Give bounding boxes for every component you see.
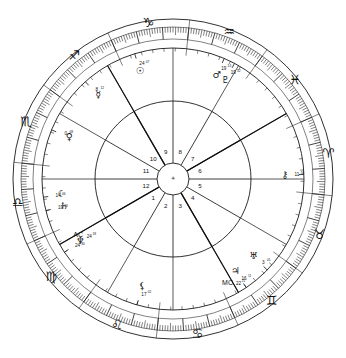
degree-tick (162, 27, 163, 39)
degree-tick (306, 241, 311, 243)
degree-tick (26, 140, 31, 141)
degree-tick (253, 52, 256, 57)
degree-tick (265, 61, 268, 65)
degree-tick (126, 318, 128, 323)
degree-tick (57, 81, 61, 85)
degree-tick (92, 50, 95, 55)
inner-degree-tick (82, 85, 84, 88)
degree-tick (25, 212, 30, 213)
degree-tick (40, 105, 45, 108)
meridian-axis (181, 193, 239, 293)
degree-tick (304, 110, 309, 113)
inner-degree-tick (219, 57, 220, 60)
sign-glyph-capricorn: ♑ (143, 15, 155, 30)
inner-degree-tick (269, 263, 272, 265)
degree-tick (302, 108, 307, 111)
planet-uranus: ♅301 (249, 250, 271, 270)
degree-tick (297, 98, 302, 101)
degree-tick (136, 321, 137, 326)
degree-tick (116, 38, 118, 43)
inner-degree-tick (43, 165, 50, 166)
degree-tick (221, 35, 223, 40)
inner-degree-tick (130, 55, 131, 58)
sign-glyph-gemini: ♊ (266, 293, 278, 308)
planet-glyph-chiron: ⚷ (281, 169, 288, 180)
degree-tick (106, 42, 108, 47)
planet-mercury: ☿812 (85, 82, 104, 101)
degree-tick (316, 147, 321, 148)
degree-tick (129, 34, 131, 39)
degree-tick (317, 204, 322, 205)
degree-tick (102, 45, 105, 50)
inner-degree-tick (223, 292, 226, 298)
degree-tick (41, 252, 46, 255)
inner-degree-tick (116, 294, 118, 297)
degree-tick (136, 32, 139, 44)
degree-tick (34, 117, 39, 119)
degree-tick (237, 311, 239, 316)
angle-degree-ac: 24 (87, 234, 93, 239)
degree-tick (66, 283, 70, 287)
planet-pointer-uranus (264, 267, 268, 270)
inner-degree-tick (204, 303, 205, 306)
degree-tick (82, 58, 85, 62)
sign-glyph-aquarius: ♒ (223, 24, 235, 39)
degree-tick (141, 322, 142, 327)
degree-tick (64, 276, 73, 284)
angle-minute-mc: 21 (242, 279, 246, 283)
inner-degree-tick (109, 64, 111, 67)
degree-tick (212, 33, 215, 45)
degree-tick (301, 250, 306, 253)
inner-degree-tick (106, 288, 108, 291)
inner-degree-tick (159, 302, 160, 309)
degree-tick (109, 312, 111, 317)
degree-tick (23, 202, 31, 203)
degree-tick (304, 246, 309, 249)
degree-tick (188, 325, 189, 330)
degree-tick (97, 47, 100, 52)
sign-divider (293, 114, 320, 126)
sign-divider (303, 193, 332, 196)
degree-tick (198, 29, 199, 34)
planet-degree-saturn: 19 (58, 205, 64, 210)
degree-tick (27, 219, 32, 221)
degree-tick (154, 324, 155, 329)
inner-degree-tick (257, 80, 259, 83)
degree-tick (86, 299, 89, 304)
degree-tick (246, 47, 249, 52)
degree-tick (233, 40, 235, 45)
degree-tick (28, 132, 33, 134)
inner-degree-tick (51, 132, 54, 133)
inner-degree-tick (282, 245, 285, 247)
degree-tick (308, 218, 320, 221)
degree-tick (47, 94, 52, 97)
degree-tick (296, 96, 301, 99)
degree-tick (216, 34, 218, 39)
degree-tick (33, 236, 38, 238)
degree-tick (121, 36, 123, 41)
degree-tick (206, 31, 207, 36)
planet-pointer-sun (135, 54, 136, 59)
degree-tick (157, 28, 158, 33)
degree-tick (50, 265, 54, 268)
degree-tick (257, 299, 260, 304)
degree-tick (102, 308, 105, 313)
angle-ac: AC2418 (73, 231, 96, 238)
degree-tick (141, 30, 142, 35)
degree-tick (149, 324, 150, 329)
degree-tick (36, 112, 47, 117)
degree-tick (290, 88, 294, 91)
degree-tick (29, 130, 34, 132)
planet-degree-moon: 14 (56, 193, 62, 198)
planet-degree-neptune: 24 (75, 243, 81, 248)
degree-tick (27, 137, 39, 140)
inner-degree-tick (272, 97, 275, 99)
degree-tick (139, 31, 140, 36)
inner-degree-tick (61, 112, 64, 114)
house-number-4: 4 (191, 194, 195, 201)
degree-tick (280, 75, 284, 79)
degree-tick (33, 120, 38, 122)
house-number-2: 2 (164, 202, 168, 209)
degree-tick (126, 34, 128, 39)
degree-tick (275, 70, 279, 74)
